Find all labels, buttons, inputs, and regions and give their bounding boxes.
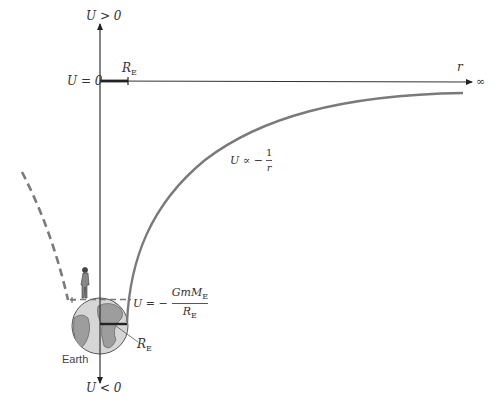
re-axis-label: RE [122, 62, 137, 77]
surface-den-sub: E [191, 311, 197, 320]
earth-globe [70, 297, 128, 354]
surface-num-main: GmM [172, 286, 202, 299]
re-earth-label: RE [137, 338, 152, 353]
re-main: R [122, 61, 131, 75]
surface-value-prefix: U = − [133, 298, 168, 309]
u-zero-label: U = 0 [67, 75, 102, 87]
earth-label: Earth [62, 354, 88, 365]
dashed-trajectory-curve [22, 172, 68, 300]
surface-value-label: U = − GmME RE [133, 287, 208, 320]
surface-den-main: R [183, 305, 191, 318]
curve-label: U ∝ − 1 r [230, 148, 272, 173]
person-figure [81, 267, 89, 298]
r-axis-label: r [457, 61, 463, 73]
re-earth-main: R [137, 337, 146, 351]
re-earth-sub: E [146, 344, 152, 353]
u-negative-label: U < 0 [86, 382, 121, 394]
surface-num-sub: E [202, 292, 208, 301]
horizontal-axis [100, 81, 472, 82]
potential-energy-diagram [0, 0, 497, 412]
re-sub: E [131, 68, 137, 77]
u-positive-label: U > 0 [86, 10, 121, 22]
curve-label-den: r [267, 163, 272, 173]
infinity-label: ∞ [476, 76, 485, 87]
curve-label-num: 1 [266, 148, 272, 158]
curve-label-prefix: U ∝ − [230, 155, 263, 166]
